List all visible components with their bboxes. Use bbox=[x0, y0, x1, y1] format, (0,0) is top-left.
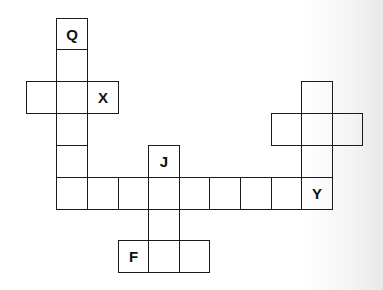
grid-cell bbox=[179, 177, 210, 210]
grid-cell bbox=[56, 145, 88, 178]
grid-cell bbox=[56, 49, 88, 82]
grid-cell-y: Y bbox=[301, 177, 333, 210]
grid-cell bbox=[56, 113, 88, 146]
grid-cell bbox=[301, 81, 333, 114]
grid-cell-q: Q bbox=[56, 18, 88, 50]
grid-cell bbox=[240, 177, 272, 210]
cube-net-grid: QXJYF bbox=[0, 0, 383, 290]
grid-cell bbox=[271, 113, 302, 146]
grid-cell bbox=[56, 81, 88, 114]
grid-cell bbox=[148, 177, 180, 210]
grid-cell-f: F bbox=[118, 240, 149, 273]
grid-cell bbox=[179, 240, 210, 273]
grid-cell bbox=[209, 177, 241, 210]
grid-cell bbox=[118, 177, 149, 210]
grid-cell bbox=[56, 177, 88, 210]
grid-cell bbox=[271, 177, 302, 210]
grid-cell bbox=[26, 81, 57, 114]
grid-cell-j: J bbox=[148, 145, 180, 178]
grid-cell bbox=[87, 177, 119, 210]
grid-cell bbox=[332, 113, 363, 146]
grid-cell bbox=[148, 209, 180, 241]
grid-cell-x: X bbox=[87, 81, 119, 114]
grid-cell bbox=[148, 240, 180, 273]
grid-cell bbox=[301, 145, 333, 178]
grid-cell bbox=[301, 113, 333, 146]
